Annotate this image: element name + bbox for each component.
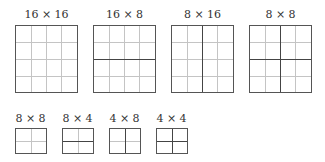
block-label-16x8: 16 × 8 xyxy=(93,8,156,21)
partition-16x16 xyxy=(15,25,78,93)
block-label-8x4: 8 × 4 xyxy=(57,112,98,125)
grid-line xyxy=(16,42,77,43)
grid-line xyxy=(94,76,155,77)
split-line-vertical xyxy=(125,129,126,153)
grid-line xyxy=(16,59,77,60)
split-line-horizontal xyxy=(157,141,187,142)
split-line-horizontal xyxy=(250,59,311,60)
partition-small-8x8 xyxy=(15,128,47,154)
partition-4x4 xyxy=(156,128,188,154)
split-line-horizontal xyxy=(94,59,155,60)
block-label-small-8x8: 8 × 8 xyxy=(10,112,51,125)
block-label-16x16: 16 × 16 xyxy=(15,8,78,21)
partition-4x8 xyxy=(109,128,141,154)
split-line-horizontal xyxy=(63,141,93,142)
grid-line xyxy=(16,76,77,77)
partition-16x8 xyxy=(93,25,156,93)
block-label-8x8: 8 × 8 xyxy=(249,8,312,21)
partition-8x16 xyxy=(171,25,234,93)
split-line-vertical xyxy=(202,26,203,92)
block-label-4x4: 4 × 4 xyxy=(151,112,192,125)
partition-8x8 xyxy=(249,25,312,93)
grid-line xyxy=(16,141,46,142)
block-label-4x8: 4 × 8 xyxy=(104,112,145,125)
grid-line xyxy=(94,42,155,43)
partition-8x4 xyxy=(62,128,94,154)
block-label-8x16: 8 × 16 xyxy=(171,8,234,21)
